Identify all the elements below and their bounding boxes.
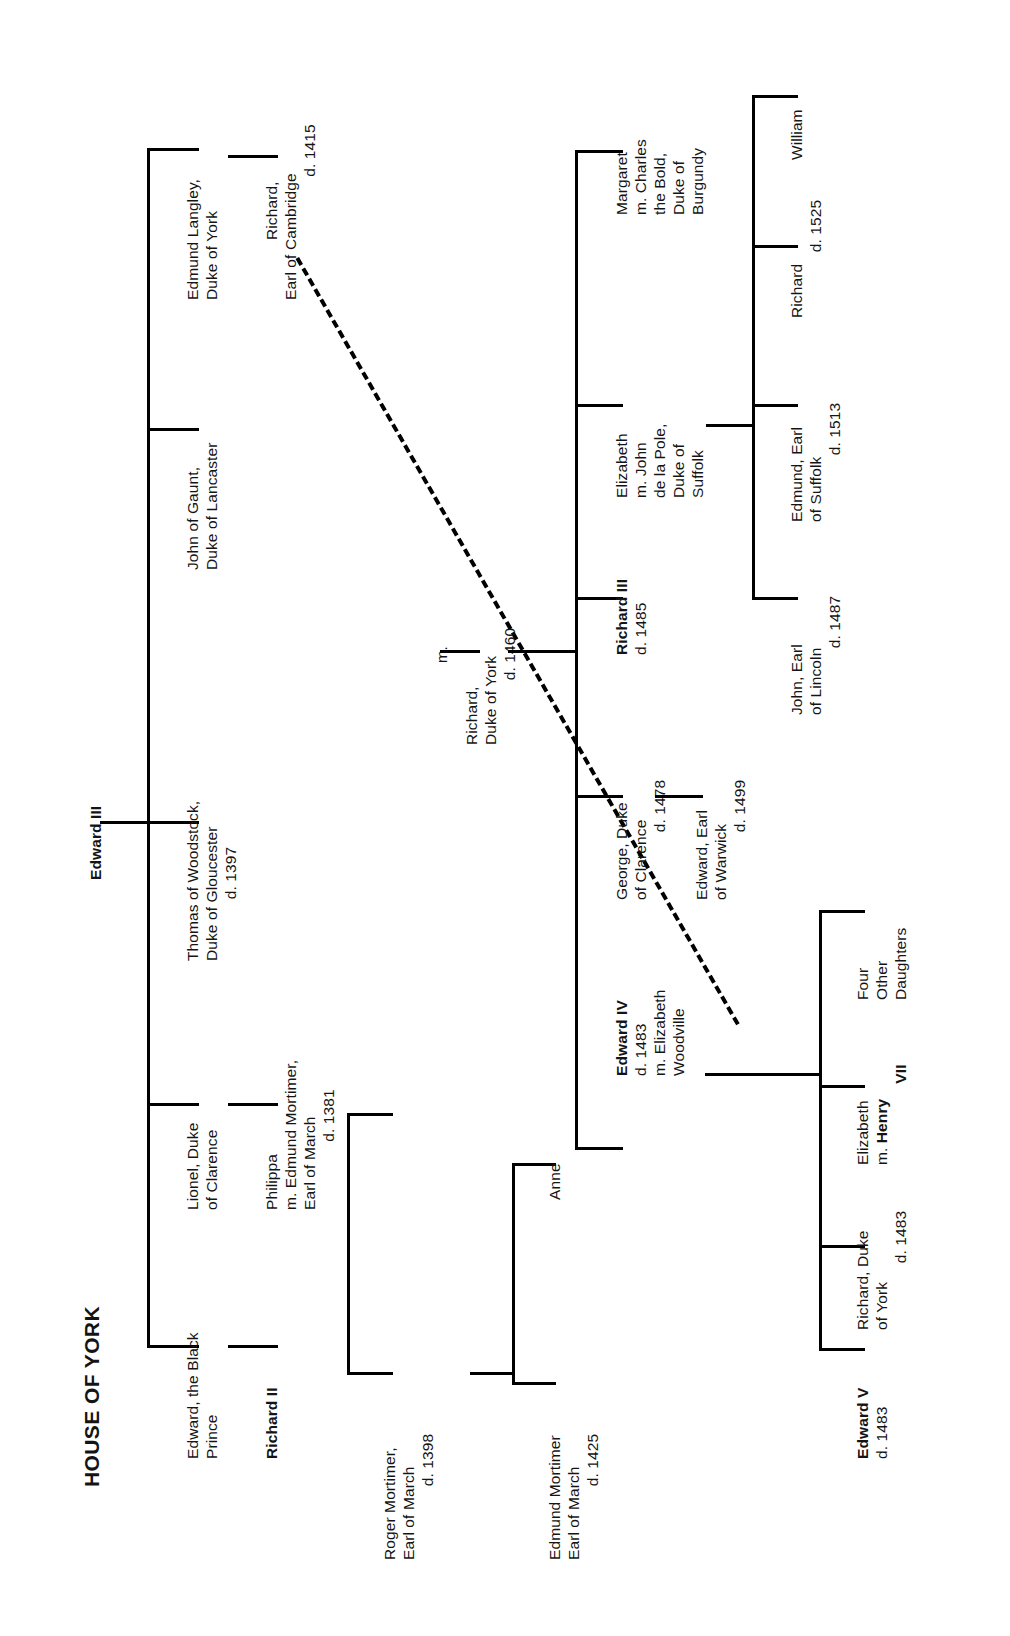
- node-elizabeth-suffolk-line5: Suffolk: [688, 450, 708, 498]
- stub-john-of-gaunt: [147, 428, 199, 431]
- node-john-lincoln-line1: John, Earl: [787, 644, 807, 715]
- stub-william: [752, 95, 798, 98]
- node-margaret-burgundy-line5: Burgundy: [688, 148, 708, 215]
- node-edmund-langley-line1: Edmund Langley,: [183, 179, 203, 300]
- page-title: HOUSE OF YORK: [82, 1306, 102, 1487]
- node-george-clarence-line3: d. 1478: [650, 760, 670, 852]
- node-richard-cambridge-line3: d. 1415: [300, 103, 320, 198]
- node-richard-cambridge-line2: Earl of Cambridge: [281, 173, 301, 300]
- connector-suffolk-children: [706, 424, 754, 427]
- node-elizabeth-suffolk-line1: Elizabeth: [612, 433, 632, 498]
- node-four-other-daughters-line1: Four: [853, 968, 873, 1000]
- node-elizabeth-henry-vii-line1: Elizabeth: [853, 1100, 873, 1165]
- node-black-prince-line1: Edward, the Black: [183, 1332, 203, 1459]
- node-william: William: [787, 109, 807, 160]
- node-richard-iii-line1: Richard III: [612, 579, 632, 655]
- node-anne: Anne: [545, 1163, 565, 1200]
- node-edmund-mortimer-line1: Edmund Mortimer: [545, 1435, 565, 1560]
- node-edward-iv-line2: d. 1483: [631, 1024, 651, 1076]
- stub-philippa: [228, 1103, 278, 1106]
- node-richard-duke-york-line1: Richard,: [462, 686, 482, 745]
- stub-richard-cambridge: [228, 155, 278, 158]
- stub-edward-v: [819, 1348, 865, 1351]
- node-edward-iv-line3: m. Elizabeth: [650, 990, 670, 1077]
- node-george-clarence-line2: of Clarence: [631, 820, 651, 900]
- node-edward-warwick-line3: d. 1499: [730, 760, 750, 852]
- node-edmund-mortimer-line2: Earl of March: [564, 1467, 584, 1560]
- node-edward-iv-line1: Edward IV: [612, 1000, 632, 1076]
- node-richard-york-1483-line2: of York: [872, 1282, 892, 1330]
- node-edward-warwick-line1: Edward, Earl: [692, 810, 712, 900]
- node-elizabeth-suffolk-line3: de la Pole,: [650, 424, 670, 498]
- node-edward-warwick-line2: of Warwick: [711, 824, 731, 900]
- henry-vii-bold: Henry: [873, 1099, 890, 1143]
- node-john-lincoln-line3: d. 1487: [825, 576, 845, 668]
- stub-four-other-daughters: [819, 910, 865, 913]
- generation4-spine: [575, 150, 578, 1150]
- node-roger-mortimer-line3: d. 1398: [418, 1412, 438, 1508]
- node-john-of-gaunt-line1: John of Gaunt,: [183, 467, 203, 570]
- stub-roger-mortimer: [347, 1113, 393, 1116]
- node-philippa-line1: Philippa: [262, 1154, 282, 1210]
- node-edward-iv-line4: Woodville: [669, 1008, 689, 1076]
- node-richard-duke-york-line2: Duke of York: [481, 656, 501, 745]
- stub-edmund-langley: [147, 148, 199, 151]
- node-margaret-burgundy-line2: m. Charles: [631, 139, 651, 215]
- node-edmund-langley-line2: Duke of York: [202, 211, 222, 300]
- node-richard-ii: Richard II: [262, 1387, 282, 1459]
- node-elizabeth-suffolk-line4: Duke of: [669, 444, 689, 498]
- connector-edward-iv-children: [705, 1073, 821, 1076]
- stub-elizabeth-henry-vii: [819, 1085, 865, 1088]
- stub-richard-ii: [228, 1345, 278, 1348]
- stub-elizabeth-suffolk: [575, 404, 623, 407]
- stub-edward-iv: [575, 1147, 623, 1150]
- generation1-spine: [147, 148, 150, 1348]
- node-john-lincoln-line2: of Lincoln: [806, 648, 826, 715]
- node-edward-v-line2: d. 1483: [872, 1407, 892, 1459]
- marriage-marker-label: m.: [432, 646, 452, 663]
- node-thomas-woodstock-line3: d. 1397: [221, 829, 241, 917]
- node-john-of-gaunt-line2: Duke of Lancaster: [202, 443, 222, 571]
- node-edmund-mortimer-line3: d. 1425: [583, 1412, 603, 1508]
- mortimer-spine: [347, 1113, 350, 1375]
- node-richard-york-1483-line3: d. 1483: [891, 1191, 911, 1283]
- node-philippa-line3: Earl of March: [300, 1117, 320, 1210]
- anne-spine: [512, 1163, 515, 1385]
- connector-anne-parent: [470, 1372, 514, 1375]
- stub-edmund-mortimer-branch: [347, 1372, 393, 1375]
- node-elizabeth-henry-vii-line2: m. Henry: [872, 1099, 892, 1165]
- stub-lionel-clarence: [147, 1103, 199, 1106]
- stub-george-clarence: [575, 795, 623, 798]
- node-four-other-daughters-line3: Daughters: [891, 928, 911, 1000]
- stub-edward-warwick: [655, 795, 703, 798]
- node-margaret-burgundy-line3: the Bold,: [650, 153, 670, 215]
- node-margaret-burgundy-line4: Duke of: [669, 161, 689, 215]
- node-philippa-line2: m. Edmund Mortimer,: [281, 1060, 301, 1210]
- stub-richard-1525: [752, 245, 798, 248]
- node-edmund-suffolk-line3: d. 1513: [825, 383, 845, 475]
- node-edward-v-line1: Edward V: [853, 1388, 873, 1459]
- suffolk-children-spine: [752, 95, 755, 600]
- root-connector: [100, 821, 148, 824]
- node-roger-mortimer-line2: Earl of March: [399, 1467, 419, 1560]
- root-label-edward-iii: Edward III: [86, 806, 106, 880]
- node-edmund-suffolk-line2: of Suffolk: [806, 457, 826, 522]
- node-richard-cambridge-line1: Richard,: [262, 181, 282, 240]
- node-lionel-clarence-line2: of Clarence: [202, 1130, 222, 1210]
- stub-edmund-mortimer: [512, 1382, 556, 1385]
- node-richard-duke-york-line3: d. 1460: [500, 608, 520, 700]
- house-of-york-family-tree: HOUSE OF YORK Edward III Edward, the Bla…: [0, 0, 1010, 1636]
- node-lionel-clarence-line1: Lionel, Duke: [183, 1123, 203, 1210]
- node-richard-iii-line2: d. 1485: [631, 603, 651, 655]
- marriage-marker-tick: [440, 650, 480, 653]
- node-edmund-suffolk-line1: Edmund, Earl: [787, 427, 807, 522]
- node-four-other-daughters-line2: Other: [872, 961, 892, 1000]
- node-roger-mortimer-line1: Roger Mortimer,: [380, 1447, 400, 1560]
- edward-iv-children-spine: [819, 910, 822, 1350]
- node-thomas-woodstock-line2: Duke of Gloucester: [202, 827, 222, 961]
- node-thomas-woodstock-line1: Thomas of Woodstock,: [183, 801, 203, 961]
- node-george-clarence-line1: George, Duke: [612, 802, 632, 900]
- node-elizabeth-henry-vii-line3: VII: [891, 1028, 911, 1120]
- node-margaret-burgundy-line1: Margaret: [612, 152, 632, 215]
- node-black-prince-line2: Prince: [202, 1414, 222, 1459]
